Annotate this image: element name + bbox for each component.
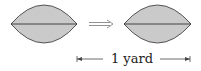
left-lens bbox=[11, 5, 77, 43]
lens-diagram: 1 yard bbox=[0, 0, 201, 71]
right-lens bbox=[124, 5, 191, 43]
dimension-right-arrowhead-icon bbox=[185, 57, 190, 61]
dimension-label: 1 yard bbox=[111, 51, 153, 66]
implies-arrow-icon bbox=[89, 20, 113, 28]
dimension-left-arrowhead-icon bbox=[77, 57, 82, 61]
